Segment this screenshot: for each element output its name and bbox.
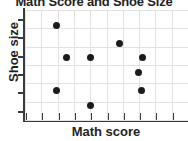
- x-axis-label: Math score: [24, 125, 188, 139]
- data-point: [116, 40, 123, 47]
- gridline-horizontal: [25, 102, 188, 103]
- data-point: [53, 87, 60, 94]
- data-point: [87, 102, 94, 109]
- gridline-horizontal: [25, 47, 188, 48]
- gridline-horizontal: [25, 28, 188, 29]
- data-point: [53, 22, 60, 29]
- y-axis-tick: [18, 111, 25, 113]
- y-axis-tick: [18, 74, 25, 76]
- y-axis-tick: [18, 37, 25, 39]
- chart-title: Math Score and Shoe Size: [0, 0, 188, 9]
- gridline-horizontal: [25, 120, 188, 121]
- data-point: [135, 69, 142, 76]
- data-point: [63, 54, 70, 61]
- plot-area: [25, 10, 188, 120]
- scatter-plot-figure: Math Score and Shoe Size Shoe size Math …: [0, 0, 188, 141]
- gridline-horizontal: [25, 83, 188, 84]
- data-point: [138, 87, 145, 94]
- data-point: [87, 54, 94, 61]
- gridline-horizontal: [25, 65, 188, 66]
- y-axis-tick: [18, 56, 25, 58]
- data-point: [139, 54, 146, 61]
- gridline-horizontal: [25, 10, 188, 11]
- y-axis-tick: [18, 92, 25, 94]
- y-axis-tick: [18, 19, 25, 21]
